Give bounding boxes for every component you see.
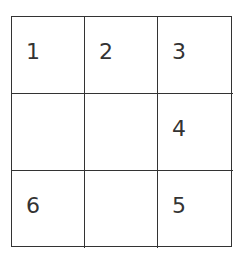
cell-number: 3 (172, 39, 186, 64)
grid-cell-r3c3: 5 (158, 171, 233, 248)
grid-cell-r1c2: 2 (85, 17, 158, 94)
grid-cell-r2c1 (12, 94, 85, 171)
grid-cell-r1c1: 1 (12, 17, 85, 94)
grid-cell-r3c2 (85, 171, 158, 248)
cell-number: 1 (26, 39, 40, 64)
cell-number: 5 (172, 193, 186, 218)
grid-cell-r1c3: 3 (158, 17, 233, 94)
cell-number: 6 (26, 193, 40, 218)
numbered-grid: 1 2 3 4 6 5 (11, 16, 232, 247)
grid-cell-r3c1: 6 (12, 171, 85, 248)
cell-number: 2 (99, 39, 113, 64)
grid-cell-r2c3: 4 (158, 94, 233, 171)
cell-number: 4 (172, 116, 186, 141)
grid-cell-r2c2 (85, 94, 158, 171)
